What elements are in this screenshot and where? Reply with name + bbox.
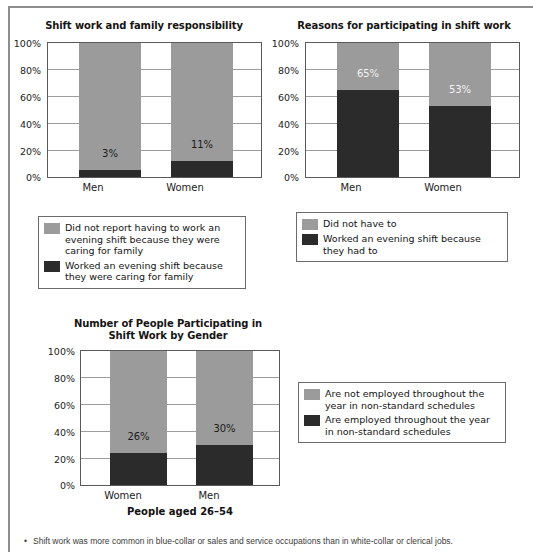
legend-item[interactable]: Worked an evening shift because they wer…: [44, 260, 239, 283]
chart3-title-line2: Shift Work by Gender: [48, 330, 288, 342]
legend-item-label: Worked an evening shift because they wer…: [65, 260, 239, 283]
chart2-y-tick: 0%: [284, 172, 299, 183]
chart3-x-label-women: Women: [80, 490, 166, 501]
footnote-list: • Shift work was more common in blue-col…: [22, 536, 522, 547]
page-rule-left: [8, 6, 10, 552]
chart1-bar-women-lower-segment: [171, 161, 233, 177]
chart2-x-label-women: Women: [398, 182, 488, 193]
chart2-bar-women-upper-segment: [429, 43, 491, 106]
chart2-bar-women: 53%: [429, 43, 491, 177]
chart2-y-axis: 100% 80% 60% 40% 20% 0%: [272, 42, 302, 178]
chart3-bar-women-lower-segment: [110, 453, 167, 485]
bullet-icon: •: [24, 536, 27, 547]
legend-item[interactable]: Worked an evening shift because they had…: [302, 233, 501, 256]
chart2-bar-women-value: 53%: [429, 84, 491, 95]
page-rule-top: [8, 6, 533, 8]
chart1-bar-men-lower-segment: [79, 170, 141, 177]
chart1-bar-women: 11%: [171, 43, 233, 177]
legend-swatch-dark-icon: [44, 261, 60, 272]
legend-item[interactable]: Are not employed throughout the year in …: [304, 388, 499, 411]
chart1-y-axis: 100% 80% 60% 40% 20% 0%: [14, 42, 44, 178]
chart2-bar-men-upper-segment: [337, 43, 399, 90]
legend-item[interactable]: Did not report having to work an evening…: [44, 222, 239, 257]
chart3-bar-men: 30%: [196, 351, 253, 485]
chart3-y-tick: 80%: [54, 373, 75, 384]
chart1-bar-men-value: 3%: [79, 148, 141, 159]
legend-swatch-light-gray-icon: [44, 223, 60, 234]
chart2-y-tick: 80%: [278, 65, 299, 76]
chart1-bar-men: 3%: [79, 43, 141, 177]
chart-reasons-for-participating-in-shift-work: Reasons for participating in shift work …: [272, 20, 528, 210]
chart3-y-tick: 40%: [54, 427, 75, 438]
chart1-plot-area: 3% 11%: [47, 42, 262, 178]
chart3-bar-men-lower-segment: [196, 445, 253, 485]
chart1-x-label-men: Men: [48, 182, 138, 193]
chart1-y-tick: 60%: [20, 92, 41, 103]
chart3-x-label-men: Men: [166, 490, 252, 501]
legend-swatch-dark-icon: [302, 234, 318, 245]
legend-swatch-light-gray-icon: [304, 389, 320, 400]
chart2-bar-men: 65%: [337, 43, 399, 177]
legend-swatch-light-gray-icon: [302, 219, 318, 230]
legend-item-label: Did not report having to work an evening…: [65, 222, 239, 257]
chart1-title: Shift work and family responsibility: [24, 20, 264, 32]
chart3-y-tick: 20%: [54, 454, 75, 465]
chart3-title-line1: Number of People Participating in: [48, 318, 288, 330]
legend-item-label: Did not have to: [323, 218, 396, 230]
chart1-y-tick: 80%: [20, 65, 41, 76]
chart2-y-tick: 40%: [278, 119, 299, 130]
chart1-y-tick: 40%: [20, 119, 41, 130]
legend-item-label: Are not employed throughout the year in …: [325, 388, 499, 411]
legend-number-of-people-participating: Are not employed throughout the year in …: [298, 382, 506, 443]
chart3-plot-wrap: 100% 80% 60% 40% 20% 0% 26% 30% Women: [40, 350, 290, 486]
legend-reasons-for-participating: Did not have to Worked an evening shift …: [296, 212, 508, 262]
chart2-bar-men-value: 65%: [337, 68, 399, 79]
chart2-title: Reasons for participating in shift work: [280, 20, 528, 32]
chart3-y-tick: 60%: [54, 400, 75, 411]
chart2-plot-area: 65% 53%: [305, 42, 520, 178]
chart3-y-tick: 0%: [60, 480, 75, 491]
legend-item[interactable]: Did not have to: [302, 218, 501, 230]
chart3-bar-women-value: 26%: [110, 431, 167, 442]
chart3-x-axis-title: People aged 26–54: [80, 506, 280, 517]
chart1-plot-wrap: 100% 80% 60% 40% 20% 0% 3% 11% Men: [14, 42, 264, 178]
chart3-y-tick: 100%: [48, 346, 75, 357]
footnote-text: Shift work was more common in blue-colla…: [33, 536, 453, 546]
legend-item[interactable]: Are employed throughout the year in non-…: [304, 414, 499, 437]
chart2-y-tick: 20%: [278, 146, 299, 157]
legend-swatch-dark-icon: [304, 415, 320, 426]
chart3-bar-women: 26%: [110, 351, 167, 485]
chart2-bar-men-lower-segment: [337, 90, 399, 177]
chart1-x-label-women: Women: [140, 182, 230, 193]
chart3-y-axis: 100% 80% 60% 40% 20% 0%: [40, 350, 78, 486]
chart2-x-label-men: Men: [306, 182, 396, 193]
chart2-bar-women-lower-segment: [429, 106, 491, 177]
footnote-item: • Shift work was more common in blue-col…: [22, 536, 522, 547]
chart-shift-work-family-responsibility: Shift work and family responsibility 100…: [14, 20, 264, 210]
chart2-y-tick: 100%: [272, 38, 299, 49]
legend-item-label: Are employed throughout the year in non-…: [325, 414, 499, 437]
chart1-y-tick: 0%: [26, 172, 41, 183]
chart2-y-tick: 60%: [278, 92, 299, 103]
legend-item-label: Worked an evening shift because they had…: [323, 233, 501, 256]
chart3-plot-area: 26% 30%: [80, 350, 280, 486]
chart1-y-tick: 20%: [20, 146, 41, 157]
chart3-bar-men-value: 30%: [196, 423, 253, 434]
chart2-plot-wrap: 100% 80% 60% 40% 20% 0% 65% 53% Men: [272, 42, 528, 178]
legend-shift-work-family-responsibility: Did not report having to work an evening…: [38, 216, 246, 289]
chart1-bar-women-value: 11%: [171, 139, 233, 150]
chart1-y-tick: 100%: [14, 38, 41, 49]
chart-number-of-people-participating-by-gender: Number of People Participating in Shift …: [40, 318, 290, 518]
